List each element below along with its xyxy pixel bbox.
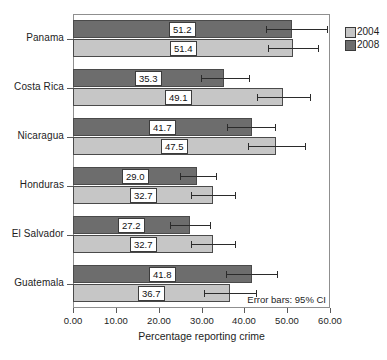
error-bar-cap [318,45,319,52]
error-bar-line [180,176,216,177]
x-tick-mark [159,308,160,313]
x-tick-mark [287,308,288,313]
plot-area [73,14,330,308]
x-tick-mark [330,308,331,313]
x-tick-mark [202,308,203,313]
error-bar-cap [201,75,202,82]
error-bar-cap [191,192,192,199]
error-bar-cap [191,241,192,248]
error-bar-cap [227,124,228,131]
data-label-2004-costa-rica: 49.1 [165,90,192,105]
data-label-2004-nicaragua: 47.5 [161,139,188,154]
error-bar-cap [180,173,181,180]
bar-chart: Panama51.251.4Costa Rica35.349.1Nicaragu… [0,0,387,360]
error-bar-cap [257,94,258,101]
error-bar-line [201,78,250,79]
error-bar-cap [305,143,306,150]
data-label-2008-honduras: 29.0 [122,169,149,184]
category-label-nicaragua: Nicaragua [0,130,64,141]
error-bar-cap [268,45,269,52]
error-bar-cap [249,75,250,82]
category-label-costa-rica: Costa Rica [0,81,64,92]
error-bar-line [266,29,328,30]
error-bar-cap [327,26,328,33]
legend-swatch-2008 [345,40,356,51]
error-bar-cap [170,222,171,229]
data-label-2008-costa-rica: 35.3 [135,71,162,86]
x-tick-label-6: 60.00 [305,315,355,326]
legend-swatch-2004 [345,27,356,38]
error-bar-cap [235,241,236,248]
x-tick-mark [73,308,74,313]
error-bar-line [170,225,210,226]
data-label-2008-guatemala: 41.8 [149,267,176,282]
data-label-2008-nicaragua: 41.7 [149,120,176,135]
data-label-2004-panama: 51.4 [170,41,197,56]
category-label-honduras: Honduras [0,179,64,190]
data-label-2008-panama: 51.2 [169,22,196,37]
x-axis-title: Percentage reporting crime [73,330,330,342]
category-label-guatemala: Guatemala [0,277,64,288]
x-tick-mark [116,308,117,313]
category-label-el-salvador: El Salvador [0,228,64,239]
error-bar-line [257,97,310,98]
data-label-2008-el-salvador: 27.2 [118,218,145,233]
legend-label-2008: 2008 [357,39,379,50]
data-label-2004-honduras: 32.7 [130,188,157,203]
error-bar-cap [310,94,311,101]
error-bar-cap [204,290,205,297]
error-bar-line [248,146,305,147]
category-label-panama: Panama [0,32,64,43]
error-bar-cap [210,222,211,229]
error-bar-line [191,195,235,196]
data-label-2004-el-salvador: 32.7 [130,237,157,252]
error-bars-note: Error bars: 95% CI [247,294,326,305]
error-bar-cap [266,26,267,33]
error-bar-cap [235,192,236,199]
data-label-2004-guatemala: 36.7 [138,286,165,301]
error-bar-line [227,127,275,128]
error-bar-cap [275,124,276,131]
error-bar-cap [216,173,217,180]
error-bar-cap [226,271,227,278]
error-bar-line [226,274,277,275]
error-bar-line [191,244,236,245]
x-tick-mark [244,308,245,313]
error-bar-cap [248,143,249,150]
legend-label-2004: 2004 [357,26,379,37]
error-bar-line [268,48,319,49]
error-bar-cap [277,271,278,278]
